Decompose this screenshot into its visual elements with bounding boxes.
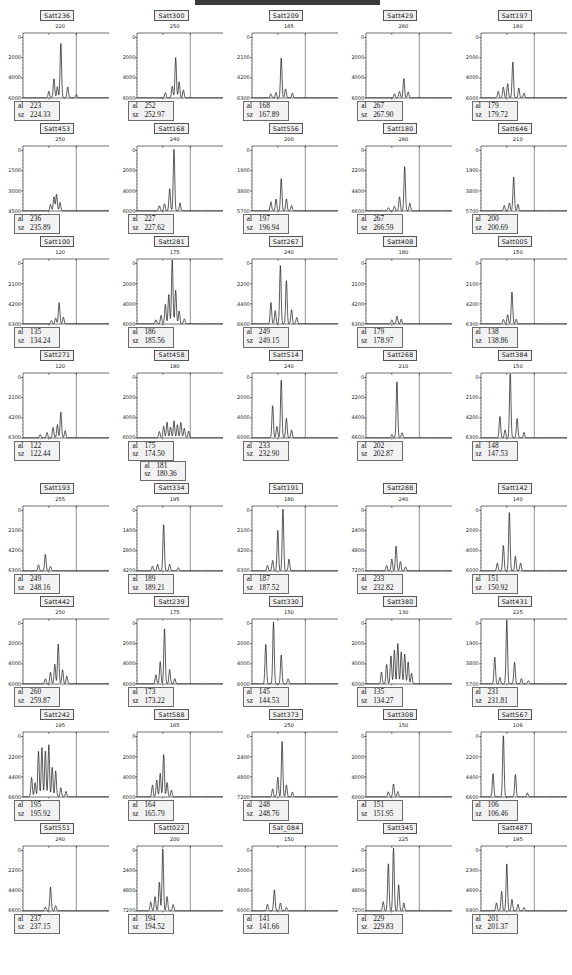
marker-panel[interactable]: Satt2391750200040006000al173sz173.22 bbox=[114, 594, 228, 707]
marker-panel[interactable]: Satt5142400200040006000al233sz232.90 bbox=[229, 348, 343, 481]
marker-panel[interactable]: Satt2362200200040006000al223sz224.33 bbox=[0, 8, 114, 121]
size-row: sz138.86 bbox=[476, 337, 514, 346]
allele-call-box[interactable]: al267sz267.90 bbox=[357, 101, 457, 121]
allele-call-box[interactable]: al233sz232.82 bbox=[357, 574, 457, 594]
marker-panel[interactable]: Satt5671060220044006600al106sz106.46 bbox=[458, 707, 572, 820]
marker-panel[interactable]: Satt3341950140028004200al189sz189.21 bbox=[114, 481, 228, 594]
electropherogram-trace: 0220044006600 bbox=[346, 370, 454, 442]
marker-panel[interactable]: Satt4581800200040006000al175sz174.50al18… bbox=[114, 348, 228, 481]
size-row: sz235.89 bbox=[18, 224, 56, 233]
marker-panel[interactable]: Satt2711200210042006300al122sz122.44 bbox=[0, 348, 114, 481]
marker-panel[interactable]: Satt2811750200040006000al186sz185.56 bbox=[114, 234, 228, 347]
allele-call-box[interactable]: al252sz252.97 bbox=[128, 101, 228, 121]
allele-call-box[interactable]: al173sz173.22 bbox=[128, 687, 228, 707]
allele-call-box[interactable]: al233sz232.90 bbox=[243, 441, 343, 461]
allele-call-box[interactable]: al135sz134.27 bbox=[357, 687, 457, 707]
allele-call-box[interactable]: al267sz266.59 bbox=[357, 214, 457, 234]
marker-panel[interactable]: Satt0051500210042006300al138sz138.86 bbox=[458, 234, 572, 347]
allele-call-box[interactable]: al236sz235.89 bbox=[14, 214, 114, 234]
allele-call-box[interactable]: al195sz195.92 bbox=[14, 800, 114, 820]
y-axis-tick-label: 1400 bbox=[123, 528, 136, 533]
marker-panel[interactable]: Satt2882400240048007200al233sz232.82 bbox=[343, 481, 457, 594]
marker-panel[interactable]: Satt3301500200040006000al145sz144.53 bbox=[229, 594, 343, 707]
marker-panel[interactable]: Satt3081500200040006000al151sz151.95 bbox=[343, 707, 457, 820]
allele-call-box[interactable]: al229sz229.83 bbox=[357, 914, 457, 934]
marker-panel[interactable]: Satt3452250240048007200al229sz229.83 bbox=[343, 821, 457, 934]
size-row: sz232.90 bbox=[247, 450, 285, 459]
marker-panel[interactable]: Satt1971800200040006000al179sz179.72 bbox=[458, 8, 572, 121]
marker-panel[interactable]: Satt5881650200040006000al164sz165.79 bbox=[114, 707, 228, 820]
marker-panel[interactable]: Sat_0841500200040006000al141sz141.66 bbox=[229, 821, 343, 934]
marker-panel[interactable]: Satt5512400220044006600al237sz237.15 bbox=[0, 821, 114, 934]
marker-label: Satt300 bbox=[154, 10, 188, 21]
allele-call-box[interactable]: al227sz227.62 bbox=[128, 214, 228, 234]
allele-call-box[interactable]: al122sz122.44 bbox=[14, 441, 114, 461]
allele-call-box[interactable]: al135sz134.24 bbox=[14, 327, 114, 347]
allele-call-box[interactable]: al168sz167.89 bbox=[243, 101, 343, 121]
x-axis-tick-label: 195 bbox=[120, 496, 228, 503]
allele-call-box[interactable]: al200sz200.69 bbox=[472, 214, 572, 234]
marker-panel[interactable]: Satt2682100220044006600al202sz202.87 bbox=[343, 348, 457, 481]
marker-panel[interactable]: Satt6462100190038005700al200sz200.69 bbox=[458, 121, 572, 234]
allele-call-box[interactable]: al151sz151.95 bbox=[357, 800, 457, 820]
allele-call-box[interactable]: al201sz201.37 bbox=[472, 914, 572, 934]
marker-panel[interactable]: Satt1421400200040006000al151sz150.92 bbox=[458, 481, 572, 594]
marker-panel[interactable]: Satt3841500210042006300al148sz147.53 bbox=[458, 348, 572, 481]
allele-call-box[interactable]: al175sz174.50 bbox=[128, 441, 228, 461]
allele-call-box[interactable]: al260sz259.87 bbox=[14, 687, 114, 707]
y-axis-tick-label: 4400 bbox=[351, 415, 364, 420]
allele-call-box[interactable]: al223sz224.33 bbox=[14, 101, 114, 121]
allele-call-box[interactable]: al148sz147.53 bbox=[472, 441, 572, 461]
allele-call-box[interactable]: al181sz180.36 bbox=[140, 461, 228, 481]
allele-call-box[interactable]: al186sz185.56 bbox=[128, 327, 228, 347]
marker-panel[interactable]: Satt2672400220044006600al249sz249.15 bbox=[229, 234, 343, 347]
y-axis-labels: 0200040006000 bbox=[461, 503, 481, 575]
marker-panel[interactable]: Satt3732500240048007200al248sz248.76 bbox=[229, 707, 343, 820]
allele-call-box[interactable]: al194sz194.52 bbox=[128, 914, 228, 934]
allele-call-box[interactable]: al202sz202.87 bbox=[357, 441, 457, 461]
allele-call-box[interactable]: al145sz144.53 bbox=[243, 687, 343, 707]
allele-call-box[interactable]: al151sz150.92 bbox=[472, 574, 572, 594]
marker-panel[interactable]: Satt2421950220044006600al195sz195.92 bbox=[0, 707, 114, 820]
marker-panel[interactable]: Satt4312250190038005700al231sz231.81 bbox=[458, 594, 572, 707]
allele-call-content: al186sz185.56 bbox=[128, 327, 174, 347]
allele-call-box[interactable]: al189sz189.21 bbox=[128, 574, 228, 594]
allele-call-box[interactable]: al231sz231.81 bbox=[472, 687, 572, 707]
marker-panel[interactable]: Satt1802600220044006600al267sz266.59 bbox=[343, 121, 457, 234]
x-axis-tick-label: 150 bbox=[464, 363, 572, 370]
marker-panel[interactable]: Satt2091650210042006300al168sz167.89 bbox=[229, 8, 343, 121]
marker-panel[interactable]: Satt1682400200040006000al227sz227.62 bbox=[114, 121, 228, 234]
allele-call-box[interactable]: al179sz178.97 bbox=[357, 327, 457, 347]
allele-call-box[interactable]: al138sz138.86 bbox=[472, 327, 572, 347]
marker-panel[interactable]: Satt5562000190038005700al197sz196.94 bbox=[229, 121, 343, 234]
size-row: sz185.56 bbox=[132, 337, 170, 346]
allele-call-box[interactable]: al106sz106.46 bbox=[472, 800, 572, 820]
marker-panel[interactable]: Satt0222000240048007200al194sz194.52 bbox=[114, 821, 228, 934]
allele-value: 168 bbox=[259, 101, 270, 110]
marker-panel[interactable]: Satt4422500200040006000al260sz259.87 bbox=[0, 594, 114, 707]
allele-call-box[interactable]: al197sz196.94 bbox=[243, 214, 343, 234]
size-value: 174.50 bbox=[144, 449, 164, 458]
marker-panel[interactable]: Satt4292600200040006000al267sz267.90 bbox=[343, 8, 457, 121]
marker-panel[interactable]: Satt4871950230046006900al201sz201.37 bbox=[458, 821, 572, 934]
marker-panel[interactable]: Satt1932550210042006300al249sz248.16 bbox=[0, 481, 114, 594]
marker-panel[interactable]: Satt3801300200040006000al135sz134.27 bbox=[343, 594, 457, 707]
allele-call-box[interactable]: al179sz179.72 bbox=[472, 101, 572, 121]
allele-call-box[interactable]: al164sz165.79 bbox=[128, 800, 228, 820]
allele-call-box[interactable]: al141sz141.66 bbox=[243, 914, 343, 934]
y-axis-tick-label: 3000 bbox=[8, 189, 21, 194]
marker-panel[interactable]: Satt1001200210042006300al135sz134.24 bbox=[0, 234, 114, 347]
marker-panel[interactable]: Satt4532500150030004500al236sz235.89 bbox=[0, 121, 114, 234]
allele-call-box[interactable]: al248sz248.76 bbox=[243, 800, 343, 820]
allele-call-content: al148sz147.53 bbox=[472, 441, 518, 461]
allele-call-box[interactable]: al249sz248.16 bbox=[14, 574, 114, 594]
allele-call-box[interactable]: al237sz237.15 bbox=[14, 914, 114, 934]
allele-call-box[interactable]: al249sz249.15 bbox=[243, 327, 343, 347]
allele-call-box[interactable]: al187sz187.52 bbox=[243, 574, 343, 594]
marker-panel[interactable]: Satt3002500200040006000al252sz252.97 bbox=[114, 8, 228, 121]
allele-call-content: al164sz165.79 bbox=[128, 800, 174, 820]
y-axis-labels: 0140028004200 bbox=[117, 503, 137, 575]
marker-panel[interactable]: Satt4081800210042006300al179sz178.97 bbox=[343, 234, 457, 347]
marker-panel[interactable]: Satt1911800210042006300al187sz187.52 bbox=[229, 481, 343, 594]
allele-value: 249 bbox=[30, 574, 41, 583]
